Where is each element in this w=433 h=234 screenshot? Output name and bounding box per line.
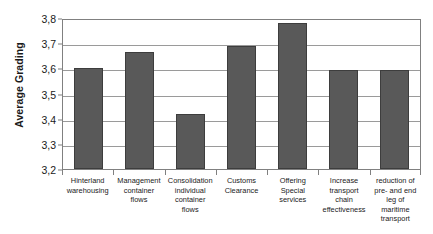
bar-slot [267, 20, 318, 169]
bar [227, 46, 256, 169]
bar-slot [216, 20, 267, 169]
x-axis-category-label: Management container flows [113, 176, 164, 232]
category-tick-mark [62, 170, 63, 175]
y-axis-tick-label: 3,7 [41, 38, 56, 50]
y-axis-tick-label: 3,6 [41, 63, 56, 75]
y-axis-tick-label: 3,5 [41, 89, 56, 101]
category-tick-mark [216, 170, 217, 175]
x-axis-category-label: Increase transport chain effectiveness [318, 176, 369, 232]
bar-slot [114, 20, 165, 169]
plot-area [62, 19, 421, 170]
x-axis-category-label: Customs Clearance [216, 176, 267, 232]
category-tick-mark [165, 170, 166, 175]
bar-slot [63, 20, 114, 169]
y-axis-tick-label: 3,3 [41, 139, 56, 151]
x-axis-category-label: Offering Special services [267, 176, 318, 232]
y-axis-title: Average Grading [8, 0, 30, 170]
category-tick-mark [318, 170, 319, 175]
bar-slot [165, 20, 216, 169]
bars-group [63, 20, 420, 169]
bar [176, 114, 205, 169]
bar [278, 23, 307, 169]
bar [74, 68, 103, 169]
x-axis-category-label: reduction of pre- and end leg of maritim… [370, 176, 421, 232]
y-axis-tick-labels: 3,83,73,63,53,43,33,2 [30, 19, 60, 170]
bar [380, 70, 409, 169]
bar [329, 70, 358, 169]
category-tick-mark [267, 170, 268, 175]
y-axis-tick-label: 3,2 [41, 164, 56, 176]
x-axis-category-label: Hinterland warehousing [62, 176, 113, 232]
category-tick-mark [370, 170, 371, 175]
bar-chart: Average Grading 3,83,73,63,53,43,33,2 Hi… [0, 0, 433, 234]
category-tick-marks [62, 170, 421, 175]
x-axis-category-labels: Hinterland warehousingManagement contain… [62, 176, 421, 232]
bar-slot [369, 20, 420, 169]
bar [125, 52, 154, 169]
y-axis-tick-label: 3,8 [41, 13, 56, 25]
bar-slot [318, 20, 369, 169]
category-tick-mark [420, 170, 421, 175]
category-tick-mark [113, 170, 114, 175]
y-axis-title-text: Average Grading [13, 42, 25, 128]
y-axis-tick-label: 3,4 [41, 114, 56, 126]
x-axis-category-label: Consolidation individual container flows [165, 176, 216, 232]
